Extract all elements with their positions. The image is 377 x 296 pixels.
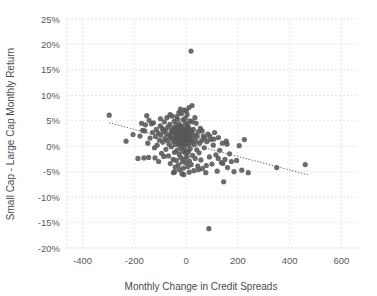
scatter-point — [189, 103, 194, 108]
scatter-point — [198, 157, 203, 162]
scatter-point — [215, 169, 220, 174]
y-tick-label: 25% — [41, 14, 61, 25]
y-tick-label: -10% — [38, 192, 61, 203]
scatter-point — [200, 128, 205, 133]
x-axis-title: Monthly Change in Credit Spreads — [125, 281, 278, 292]
scatter-point — [303, 162, 308, 167]
scatter-point — [191, 127, 196, 132]
y-tick-label: 15% — [41, 64, 61, 75]
scatter-point — [145, 141, 150, 146]
x-tick-label: -400 — [73, 255, 92, 266]
scatter-point — [155, 143, 160, 148]
scatter-point — [220, 161, 225, 166]
scatter-point — [161, 154, 166, 159]
y-tick-label: -15% — [38, 217, 61, 228]
scatter-point — [192, 115, 197, 120]
scatter-point — [196, 150, 201, 155]
y-tick-label: 5% — [46, 115, 60, 126]
scatter-point — [193, 156, 198, 161]
scatter-point — [151, 120, 156, 125]
scatter-point — [188, 48, 193, 53]
scatter-point — [212, 130, 217, 135]
y-tick-label: 10% — [41, 90, 61, 101]
scatter-point — [142, 128, 147, 133]
scatter-point — [239, 168, 244, 173]
scatter-point — [130, 132, 135, 137]
chart-figure: -20%-15%-10%-5%0%5%10%15%20%25% -400-200… — [0, 0, 377, 296]
scatter-point — [166, 153, 171, 158]
scatter-point — [225, 165, 230, 170]
x-tick-label: 400 — [282, 255, 298, 266]
scatter-point — [216, 156, 221, 161]
scatter-point — [181, 172, 186, 177]
scatter-point — [141, 155, 146, 160]
scatter-point — [178, 106, 183, 111]
scatter-point — [211, 136, 216, 141]
x-tick-label: 200 — [230, 255, 246, 266]
y-tick-label: 0% — [46, 141, 60, 152]
x-tick-label: 0 — [183, 255, 188, 266]
scatter-point — [229, 159, 234, 164]
scatter-point — [189, 162, 194, 167]
scatter-point — [158, 116, 163, 121]
scatter-point — [123, 139, 128, 144]
scatter-point — [204, 163, 209, 168]
scatter-point — [167, 112, 172, 117]
scatter-point — [203, 170, 208, 175]
scatter-point — [196, 167, 201, 172]
scatter-point — [207, 154, 212, 159]
scatter-point — [185, 112, 190, 117]
scatter-point — [135, 156, 140, 161]
y-tick-label: -5% — [43, 166, 60, 177]
scatter-point — [242, 137, 247, 142]
scatter-point — [107, 113, 112, 118]
scatter-plot: -20%-15%-10%-5%0%5%10%15%20%25% -400-200… — [0, 0, 377, 296]
y-tick-label: -20% — [38, 243, 61, 254]
scatter-point — [246, 170, 251, 175]
scatter-point — [188, 146, 193, 151]
scatter-point — [174, 158, 179, 163]
scatter-point — [195, 134, 200, 139]
scatter-point — [148, 135, 153, 140]
scatter-point — [237, 143, 242, 148]
scatter-point — [234, 158, 239, 163]
scatter-point — [209, 161, 214, 166]
x-tick-label: 600 — [334, 255, 350, 266]
scatter-point — [231, 169, 236, 174]
scatter-point — [185, 154, 190, 159]
scatter-point — [146, 155, 151, 160]
y-axis-title: Small Cap - Large Cap Monthly Return — [5, 48, 16, 220]
scatter-point — [144, 113, 149, 118]
scatter-point — [206, 226, 211, 231]
scatter-point — [137, 133, 142, 138]
scatter-point — [224, 142, 229, 147]
scatter-point — [143, 122, 148, 127]
y-tick-label: 20% — [41, 39, 61, 50]
scatter-point — [172, 169, 177, 174]
scatter-point — [187, 170, 192, 175]
scatter-point — [207, 133, 212, 138]
scatter-point — [163, 147, 168, 152]
scatter-point — [152, 155, 157, 160]
scatter-point — [191, 168, 196, 173]
scatter-point — [211, 143, 216, 148]
scatter-point — [221, 179, 226, 184]
x-tick-label: -200 — [125, 255, 144, 266]
